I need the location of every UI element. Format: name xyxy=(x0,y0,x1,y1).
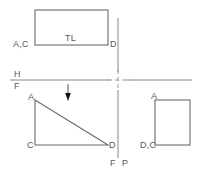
top-view-label-d: D xyxy=(110,39,117,49)
fold-line-group xyxy=(10,18,192,158)
fold-label-p-vertical: P xyxy=(122,158,128,168)
arrow-head-down-icon xyxy=(65,93,71,101)
profile-view-group xyxy=(155,100,190,145)
front-view-label-a: A xyxy=(28,92,34,102)
front-view-group xyxy=(35,100,108,145)
front-view-label-c: C xyxy=(27,140,34,150)
front-view-label-d: D xyxy=(109,140,116,150)
fold-label-f-horizontal: F xyxy=(14,81,20,91)
profile-view-rectangle xyxy=(155,100,190,145)
front-view-triangle xyxy=(35,100,108,145)
drawing-canvas: H F F P A,C D TL A C D A D,C xyxy=(0,0,204,186)
top-view-label-ac: A,C xyxy=(13,39,29,49)
orthographic-projection-drawing: H F F P A,C D TL A C D A D,C xyxy=(0,0,204,186)
profile-view-label-dc: D,C xyxy=(140,140,157,150)
fold-label-f-vertical: F xyxy=(110,158,116,168)
fold-label-h: H xyxy=(14,69,21,79)
profile-view-label-a: A xyxy=(151,91,157,101)
top-view-label-tl: TL xyxy=(65,33,76,43)
line-of-sight-arrow xyxy=(65,84,71,101)
